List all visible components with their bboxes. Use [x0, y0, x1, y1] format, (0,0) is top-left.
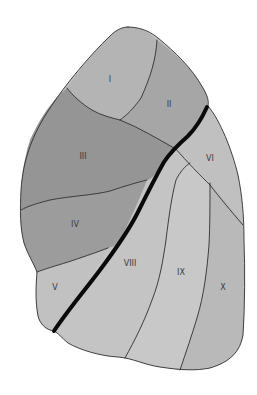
- lung-segment-diagram: I II III IV V VI VIII IX X: [0, 0, 257, 395]
- label-IX: IX: [177, 268, 185, 277]
- label-VI: VI: [206, 154, 214, 163]
- label-III: III: [79, 152, 86, 161]
- label-II: II: [167, 100, 172, 109]
- label-VIII: VIII: [124, 259, 137, 268]
- label-I: I: [109, 75, 111, 84]
- label-V: V: [52, 283, 58, 292]
- label-IV: IV: [71, 220, 79, 229]
- segment-fills: [20, 27, 244, 370]
- label-X: X: [220, 283, 226, 292]
